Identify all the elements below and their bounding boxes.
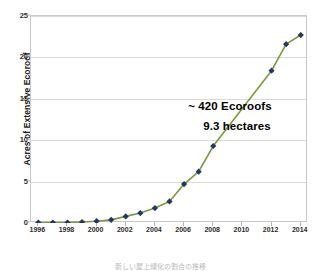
x-tick-label: 2010 bbox=[226, 226, 256, 233]
data-point-marker bbox=[94, 218, 100, 223]
x-tick-label: 2014 bbox=[285, 226, 315, 233]
annotation-line-ecoroofs: ~ 420 Ecoroofs bbox=[152, 96, 308, 116]
bottom-caption: 新しい屋上緑化の割合の推移 bbox=[0, 261, 320, 271]
data-point-marker bbox=[137, 210, 143, 216]
y-tick-label: 15 bbox=[6, 93, 28, 102]
x-tick-label: 2000 bbox=[81, 226, 111, 233]
x-tick-label: 2004 bbox=[139, 226, 169, 233]
x-tick-label: 2006 bbox=[168, 226, 198, 233]
x-tick-label: 2008 bbox=[197, 226, 227, 233]
x-tick-label: 2012 bbox=[256, 226, 286, 233]
data-point-marker bbox=[50, 219, 56, 223]
y-tick-label: 20 bbox=[6, 52, 28, 61]
data-point-marker bbox=[64, 219, 70, 223]
data-point-marker bbox=[35, 219, 41, 223]
x-tick-label: 1998 bbox=[51, 226, 81, 233]
x-tick-label: 1996 bbox=[22, 226, 52, 233]
annotation-line-hectares: 9.3 hectares bbox=[152, 116, 308, 136]
data-point-marker bbox=[108, 217, 114, 223]
x-tick-label: 2002 bbox=[110, 226, 140, 233]
y-tick-label: 10 bbox=[6, 135, 28, 144]
annotation-callout: ~ 420 Ecoroofs 9.3 hectares bbox=[152, 96, 308, 136]
y-tick-label: 5 bbox=[6, 176, 28, 185]
y-tick-label: 25 bbox=[6, 11, 28, 20]
data-point-marker bbox=[152, 205, 158, 211]
data-point-marker bbox=[123, 213, 129, 219]
data-point-marker bbox=[79, 219, 85, 223]
